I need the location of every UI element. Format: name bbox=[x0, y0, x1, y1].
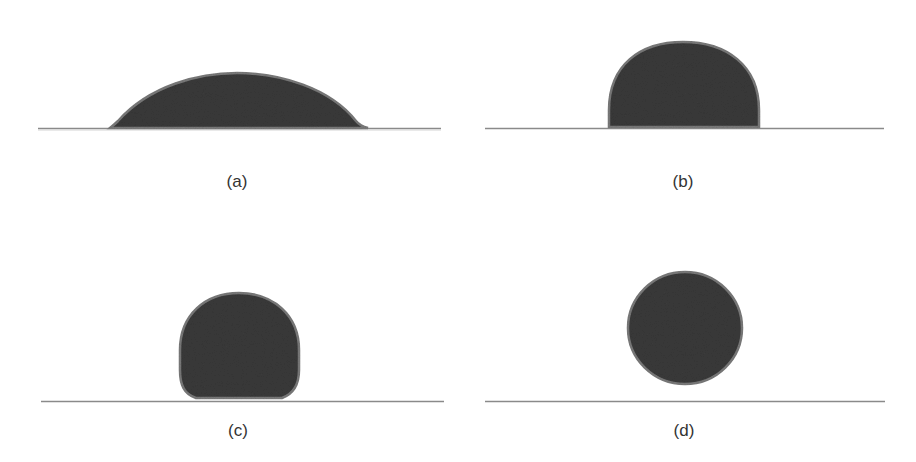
wetting-diagram: (a) (b) (c) (d) bbox=[0, 0, 916, 462]
droplet-d bbox=[628, 272, 742, 384]
caption-c: (c) bbox=[208, 421, 268, 441]
droplet-c bbox=[180, 293, 299, 398]
diagram-canvas bbox=[0, 0, 916, 462]
panel-d bbox=[485, 272, 885, 402]
droplet-a bbox=[110, 73, 368, 128]
caption-b: (b) bbox=[653, 172, 713, 192]
caption-d: (d) bbox=[654, 421, 714, 441]
caption-a: (a) bbox=[207, 172, 267, 192]
panel-c bbox=[41, 293, 444, 402]
droplet-b bbox=[609, 42, 759, 127]
panel-a bbox=[38, 73, 441, 130]
panel-b bbox=[485, 42, 884, 129]
